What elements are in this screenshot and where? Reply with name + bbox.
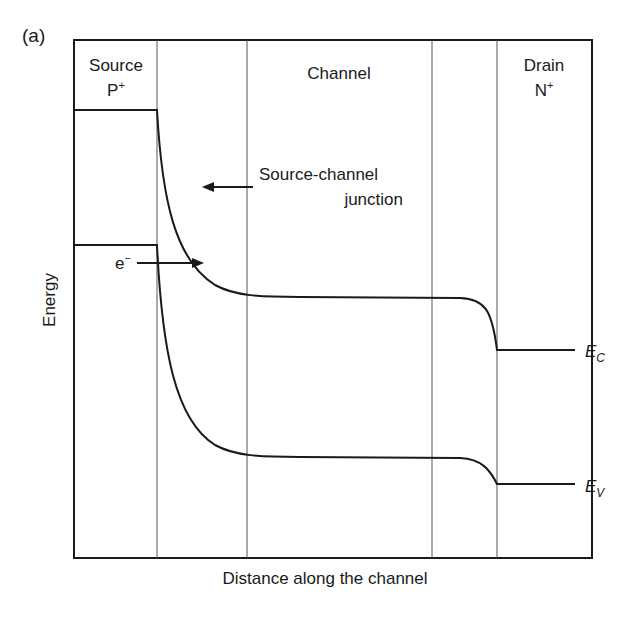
conduction-band-curve — [74, 110, 575, 350]
junction-label-line2: junction — [343, 190, 403, 209]
source-label: Source — [89, 56, 143, 75]
valence-band-curve — [74, 245, 575, 484]
plot-frame — [74, 40, 592, 558]
source-doping: P+ — [107, 79, 125, 100]
junction-arrow — [202, 182, 253, 192]
conduction-band-label: EC — [585, 342, 605, 365]
channel-label: Channel — [307, 64, 370, 83]
valence-band-label: EV — [585, 477, 605, 500]
band-diagram: (a) Source P+ Channel Drain N+ Source-ch… — [0, 0, 637, 618]
electron-label: e− — [115, 252, 131, 273]
x-axis-label: Distance along the channel — [222, 569, 427, 588]
drain-doping: N+ — [535, 79, 554, 100]
electron-arrow — [137, 258, 204, 268]
panel-label: (a) — [22, 25, 45, 46]
region-dividers — [157, 40, 497, 558]
y-axis-label: Energy — [40, 273, 59, 327]
junction-label-line1: Source-channel — [259, 165, 378, 184]
drain-label: Drain — [524, 56, 565, 75]
